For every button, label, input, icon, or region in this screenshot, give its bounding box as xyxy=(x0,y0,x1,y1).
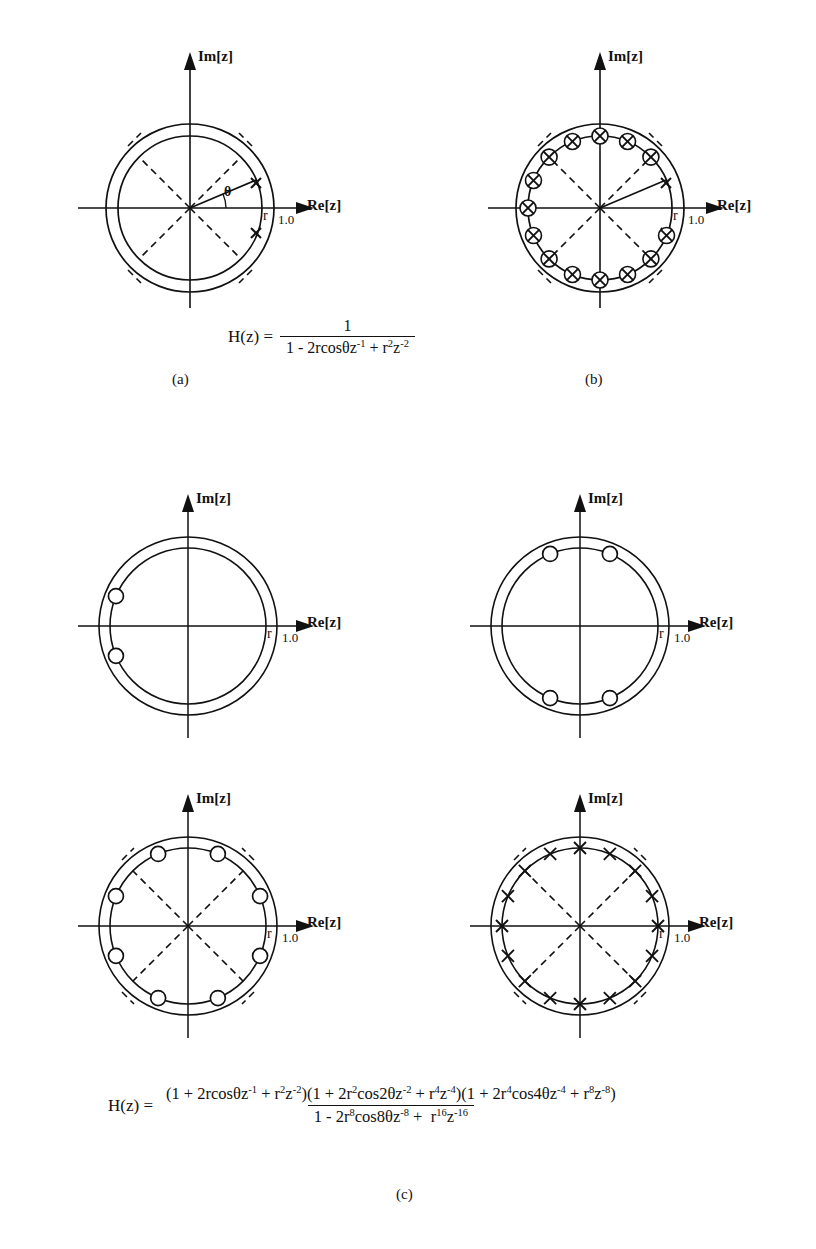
open-circle-marker xyxy=(108,889,123,904)
panel-a-plot: Re[z] Im[z] θ r 1.0 xyxy=(78,50,408,310)
panel-c3-re-axis-label: Re[z] xyxy=(307,914,341,931)
circled-x-marker xyxy=(541,149,557,165)
panel-c1-re-axis-label: Re[z] xyxy=(307,614,341,631)
panel-c2-svg xyxy=(470,490,800,740)
panel-c4-re-axis-label: Re[z] xyxy=(699,914,733,931)
open-circle-marker xyxy=(253,889,268,904)
panel-c1-unit-tick: 1.0 xyxy=(282,630,298,646)
x-marker xyxy=(519,975,531,987)
panel-a-re-axis-label: Re[z] xyxy=(307,197,341,214)
panel-c3-plot: Re[z] Im[z] r 1.0 xyxy=(78,790,408,1040)
panel-a-im-axis-label: Im[z] xyxy=(198,48,233,65)
panel-a-r-tick: r xyxy=(263,208,268,224)
x-marker xyxy=(544,992,556,1004)
panel-c1-r-tick: r xyxy=(267,626,272,642)
circled-x-marker xyxy=(592,128,608,144)
circled-x-marker xyxy=(520,200,536,216)
open-circle-marker xyxy=(151,846,166,861)
panel-c3-svg xyxy=(78,790,408,1040)
radius-line-b xyxy=(600,180,666,208)
panel-c2-re-axis-label: Re[z] xyxy=(699,614,733,631)
open-circle-marker xyxy=(210,991,225,1006)
equation-c-numerator: (1 + 2rcosθz-1 + r2z-2)(1 + 2r2cos2θz-2 … xyxy=(160,1085,622,1105)
panel-c4-unit-tick: 1.0 xyxy=(674,930,690,946)
circled-x-marker xyxy=(592,272,608,288)
open-circle-marker xyxy=(108,648,123,663)
equation-c-lhs: H(z) = xyxy=(108,1096,153,1116)
equation-a-fraction: 1 1 - 2rcosθz-1 + r2z-2 xyxy=(280,317,415,358)
x-marker xyxy=(519,865,531,877)
panel-c4-plot: Re[z] Im[z] r 1.0 xyxy=(470,790,800,1040)
panel-c4-im-axis-label: Im[z] xyxy=(588,790,623,807)
equation-a-denominator: 1 - 2rcosθz-1 + r2z-2 xyxy=(280,336,415,357)
x-marker xyxy=(604,992,616,1004)
panel-b-unit-tick: 1.0 xyxy=(688,212,704,228)
open-circle-marker xyxy=(253,948,268,963)
panel-c2-r-tick: r xyxy=(659,626,664,642)
panel-a-unit-tick: 1.0 xyxy=(278,212,294,228)
x-marker xyxy=(502,890,514,902)
circled-x-marker xyxy=(525,172,541,188)
axes-c3 xyxy=(78,794,314,1038)
circled-x-marker xyxy=(564,267,580,283)
panel-c3-unit-tick: 1.0 xyxy=(282,930,298,946)
x-marker xyxy=(544,848,556,860)
open-circle-marker xyxy=(543,691,558,706)
x-marker xyxy=(629,975,641,987)
x-marker xyxy=(646,890,658,902)
open-circle-marker xyxy=(108,589,123,604)
circled-x-marker xyxy=(564,133,580,149)
open-circle-marker xyxy=(602,546,617,561)
circled-x-marker xyxy=(525,228,541,244)
equation-c-fraction: (1 + 2rcosθz-1 + r2z-2)(1 + 2r2cos2θz-2 … xyxy=(160,1085,622,1127)
caption-a: (a) xyxy=(172,371,189,388)
circled-x-marker xyxy=(620,133,636,149)
panel-b-svg xyxy=(488,50,816,310)
circled-x-marker xyxy=(620,267,636,283)
figure-page: Re[z] Im[z] θ r 1.0 H(z) = 1 1 - 2rcosθz… xyxy=(0,0,816,1249)
axes-c1 xyxy=(78,494,314,738)
axes-c4 xyxy=(470,794,706,1038)
x-marker xyxy=(629,865,641,877)
open-circle-marker xyxy=(151,991,166,1006)
axes-b xyxy=(488,52,724,308)
open-circle-marker xyxy=(108,948,123,963)
panel-b-re-axis-label: Re[z] xyxy=(717,197,751,214)
equation-c-denominator: 1 - 2r8cos8θz-8 + r16z-16 xyxy=(308,1105,474,1127)
open-circle-marker xyxy=(543,546,558,561)
panel-c1-svg xyxy=(78,490,408,740)
circled-x-marker xyxy=(643,251,659,267)
panel-c2-im-axis-label: Im[z] xyxy=(588,490,623,507)
panel-c4-r-tick: r xyxy=(659,926,664,942)
panel-c1-plot: Re[z] Im[z] r 1.0 xyxy=(78,490,408,740)
equation-a-lhs: H(z) = xyxy=(228,327,273,347)
panel-a-theta-label: θ xyxy=(224,184,231,200)
circled-x-marker xyxy=(643,149,659,165)
panel-b-r-tick: r xyxy=(673,208,678,224)
panel-c3-im-axis-label: Im[z] xyxy=(196,790,231,807)
open-circle-marker xyxy=(602,691,617,706)
caption-c: (c) xyxy=(396,1186,413,1203)
open-circle-marker xyxy=(210,846,225,861)
panel-b-plot: Re[z] Im[z] r 1.0 xyxy=(488,50,816,310)
circled-x-marker xyxy=(541,251,557,267)
panel-c1-im-axis-label: Im[z] xyxy=(196,490,231,507)
panel-a-svg xyxy=(78,50,408,310)
equation-panel-a: H(z) = 1 1 - 2rcosθz-1 + r2z-2 xyxy=(228,317,415,358)
panel-c4-svg xyxy=(470,790,800,1040)
circled-x-marker xyxy=(659,228,675,244)
equation-panel-c: H(z) = (1 + 2rcosθz-1 + r2z-2)(1 + 2r2co… xyxy=(108,1085,622,1127)
panel-c3-r-tick: r xyxy=(267,926,272,942)
equation-a-numerator: 1 xyxy=(337,317,357,336)
caption-b: (b) xyxy=(585,371,603,388)
panel-c2-plot: Re[z] Im[z] r 1.0 xyxy=(470,490,800,740)
panel-b-im-axis-label: Im[z] xyxy=(608,48,643,65)
x-marker xyxy=(502,950,514,962)
x-marker xyxy=(646,950,658,962)
panel-c2-unit-tick: 1.0 xyxy=(674,630,690,646)
axes-a xyxy=(78,52,314,308)
axes-c2 xyxy=(470,494,706,738)
x-marker xyxy=(604,848,616,860)
